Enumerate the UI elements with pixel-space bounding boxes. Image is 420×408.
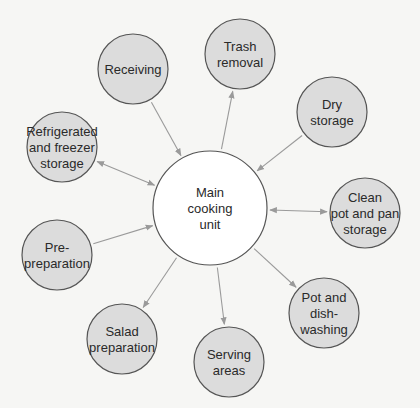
node-label: cooking xyxy=(188,201,233,216)
node-label: and freezer xyxy=(29,140,95,155)
node-label: storage xyxy=(40,156,83,171)
node-pot-dish: Pot anddish-washing xyxy=(289,278,359,348)
node-label: Main xyxy=(196,185,224,200)
node-label: removal xyxy=(217,55,263,70)
node-label: Pre- xyxy=(45,240,70,255)
node-label: Serving xyxy=(207,347,251,362)
node-label: preparation xyxy=(89,340,155,355)
nodes: ReceivingTrashremovalDrystorageCleanpot … xyxy=(22,19,400,397)
node-label: storage xyxy=(310,113,353,128)
edge-clean-pot xyxy=(270,210,327,212)
node-label: preparation xyxy=(24,256,90,271)
node-salad: Saladpreparation xyxy=(87,304,157,374)
node-label: Refrigerated xyxy=(26,124,98,139)
edge-dry xyxy=(257,135,302,170)
edge-pre-prep xyxy=(93,226,152,244)
node-label: Clean xyxy=(348,190,382,205)
node-clean-pot: Cleanpot and panstorage xyxy=(330,178,400,248)
edge-pot-dish xyxy=(254,249,296,288)
node-label: areas xyxy=(213,363,246,378)
node-dry: Drystorage xyxy=(297,77,367,147)
node-pre-prep: Pre-preparation xyxy=(22,220,92,290)
node-receiving: Receiving xyxy=(98,34,168,104)
edge-serving xyxy=(217,268,224,325)
node-label: Trash xyxy=(224,39,257,54)
node-label: Salad xyxy=(105,324,138,339)
node-label: Pot and xyxy=(302,290,347,305)
node-label: unit xyxy=(200,217,221,232)
node-label: pot and pan xyxy=(331,206,400,221)
node-trash: Trashremoval xyxy=(205,19,275,89)
node-serving: Servingareas xyxy=(194,327,264,397)
edge-trash xyxy=(221,91,232,149)
edge-refrigerated xyxy=(97,161,154,185)
node-label: storage xyxy=(343,222,386,237)
node-main-cooking-unit: Maincookingunit xyxy=(153,151,267,265)
kitchen-flow-diagram: ReceivingTrashremovalDrystorageCleanpot … xyxy=(0,0,420,408)
node-label: Receiving xyxy=(104,62,161,77)
node-label: Dry xyxy=(322,97,343,112)
node-label: dish- xyxy=(310,306,338,321)
node-label: washing xyxy=(299,322,348,337)
node-refrigerated: Refrigeratedand freezerstorage xyxy=(26,112,98,182)
edge-receiving xyxy=(151,102,181,155)
edge-salad xyxy=(143,258,176,308)
